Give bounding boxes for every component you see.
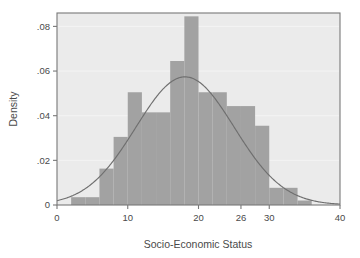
histogram-bar bbox=[269, 188, 283, 205]
x-tick-label: 40 bbox=[335, 212, 346, 223]
x-tick-label: 30 bbox=[264, 212, 275, 223]
histogram-bar bbox=[71, 197, 85, 205]
histogram-bar bbox=[298, 201, 312, 205]
y-tick-label: .02 bbox=[37, 155, 50, 166]
histogram-bar bbox=[142, 112, 156, 205]
histogram-bar bbox=[199, 92, 213, 205]
histogram-bar bbox=[213, 92, 227, 205]
histogram-bar bbox=[255, 126, 269, 205]
histogram-bar bbox=[170, 61, 184, 205]
y-tick-label: .04 bbox=[37, 110, 50, 121]
x-axis-title: Socio-Economic Status bbox=[144, 238, 253, 250]
histogram-bar bbox=[227, 106, 241, 205]
y-tick-label: 0 bbox=[45, 199, 50, 210]
histogram-figure: 0.02.04.06.08 01020263040 Density Socio-… bbox=[0, 0, 360, 258]
y-tick-label: .06 bbox=[37, 65, 50, 76]
x-tick-label: 20 bbox=[193, 212, 204, 223]
histogram-bar bbox=[283, 188, 297, 205]
x-tick-label: 26 bbox=[236, 212, 247, 223]
histogram-bar bbox=[156, 112, 170, 205]
histogram-bar bbox=[184, 16, 198, 205]
histogram-bar bbox=[128, 92, 142, 205]
density-histogram-chart: 0.02.04.06.08 01020263040 Density Socio-… bbox=[0, 0, 360, 258]
x-tick-label: 10 bbox=[122, 212, 133, 223]
y-tick-label: .08 bbox=[37, 21, 50, 32]
x-tick-label: 0 bbox=[54, 212, 59, 223]
y-axis-title: Density bbox=[7, 91, 19, 127]
histogram-bar bbox=[114, 137, 128, 205]
histogram-bar bbox=[85, 197, 99, 205]
